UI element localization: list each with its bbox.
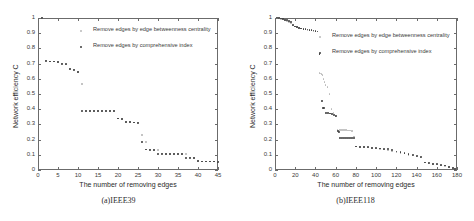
x-tick-label: 0 — [266, 172, 284, 178]
y-tick — [38, 109, 41, 110]
data-point — [161, 153, 163, 155]
data-point — [153, 149, 155, 151]
data-point — [85, 110, 87, 112]
data-point — [137, 122, 139, 124]
data-point — [169, 153, 171, 155]
data-point — [73, 69, 75, 71]
y-tick-label: 0.7 — [255, 60, 272, 66]
x-tick-label: 40 — [306, 172, 324, 178]
x-tick — [396, 167, 397, 170]
x-tick-label: 20 — [286, 172, 304, 178]
x-tick-label: 60 — [327, 172, 345, 178]
data-point — [69, 68, 71, 70]
x-tick-top — [58, 18, 59, 21]
y-tick — [38, 140, 41, 141]
data-point — [321, 100, 323, 102]
panel-caption-a: (a)IEEE39 — [0, 196, 237, 205]
y-tick — [275, 109, 278, 110]
x-tick-label: 15 — [89, 172, 107, 178]
y-tick-label: 0.4 — [18, 105, 35, 111]
data-point — [97, 110, 99, 112]
data-point — [353, 137, 355, 139]
y-tick — [38, 33, 41, 34]
x-tick-top — [396, 18, 397, 21]
y-tick-label: 0.9 — [18, 29, 35, 35]
data-point — [428, 162, 430, 164]
legend-marker-icon — [80, 46, 82, 48]
x-tick-label: 100 — [367, 172, 385, 178]
x-tick-label: 40 — [189, 172, 207, 178]
panel-caption-b: (b)IEEE118 — [237, 196, 474, 205]
y-tick-right — [215, 155, 218, 156]
data-point — [141, 134, 143, 136]
x-tick-top — [118, 18, 119, 21]
y-tick-label: 0.4 — [255, 105, 272, 111]
y-tick — [275, 48, 278, 49]
data-point — [41, 17, 43, 19]
y-tick-label: 0.6 — [18, 75, 35, 81]
y-tick-label: 1 — [255, 14, 272, 20]
x-tick — [356, 167, 357, 170]
x-tick-label: 140 — [408, 172, 426, 178]
x-tick-top — [98, 18, 99, 21]
legend-label: Remove edges by edge betweenness central… — [93, 26, 211, 32]
y-tick-label: 0 — [255, 166, 272, 172]
data-point — [57, 61, 59, 63]
data-point — [412, 154, 414, 156]
y-tick-label: 0.7 — [18, 60, 35, 66]
y-tick — [275, 64, 278, 65]
y-tick — [38, 79, 41, 80]
data-point — [371, 147, 373, 149]
plot-frame-b — [275, 18, 457, 170]
y-tick-right — [454, 64, 457, 65]
x-tick-top — [315, 18, 316, 21]
y-tick — [275, 18, 278, 19]
y-tick-label: 0.1 — [18, 151, 35, 157]
x-tick-top — [417, 18, 418, 21]
x-axis-label-a: The number of removing edges — [38, 181, 218, 188]
y-tick-label: 0.5 — [255, 90, 272, 96]
y-tick — [275, 79, 278, 80]
y-tick-right — [454, 170, 457, 171]
y-tick — [275, 140, 278, 141]
data-point — [338, 131, 340, 133]
data-point — [351, 130, 353, 132]
x-tick-label: 45 — [209, 172, 227, 178]
y-tick-right — [454, 79, 457, 80]
y-tick-right — [215, 109, 218, 110]
y-tick-right — [215, 140, 218, 141]
x-tick — [198, 167, 199, 170]
data-point — [448, 166, 450, 168]
x-tick — [98, 167, 99, 170]
y-tick-label: 0.8 — [18, 44, 35, 50]
x-tick-label: 10 — [69, 172, 87, 178]
x-tick-top — [158, 18, 159, 21]
data-point — [217, 161, 219, 163]
y-tick-right — [215, 94, 218, 95]
y-tick-right — [215, 33, 218, 34]
y-tick — [275, 155, 278, 156]
y-tick-right — [215, 124, 218, 125]
data-point — [432, 163, 434, 165]
y-tick-right — [454, 18, 457, 19]
data-point — [145, 141, 147, 143]
data-point — [420, 156, 422, 158]
y-tick — [38, 94, 41, 95]
legend-label: Remove edges by comprehensive index — [93, 42, 193, 48]
chart-panel-ieee39: 05101520253035404500.10.20.30.40.50.60.7… — [0, 0, 237, 221]
y-tick-label: 1 — [18, 14, 35, 20]
y-tick-label: 0.1 — [255, 151, 272, 157]
y-axis-label-b: Network efficiency C — [249, 64, 256, 128]
x-tick — [376, 167, 377, 170]
data-point — [359, 146, 361, 148]
data-point — [105, 110, 107, 112]
y-tick — [38, 18, 41, 19]
x-tick-top — [376, 18, 377, 21]
data-point — [185, 157, 187, 159]
x-tick-top — [138, 18, 139, 21]
data-point — [61, 63, 63, 65]
x-tick-top — [178, 18, 179, 21]
data-point — [440, 164, 442, 166]
chart-panel-ieee118: 02040608010012014016018000.10.20.30.40.5… — [237, 0, 474, 221]
data-point — [81, 110, 83, 112]
